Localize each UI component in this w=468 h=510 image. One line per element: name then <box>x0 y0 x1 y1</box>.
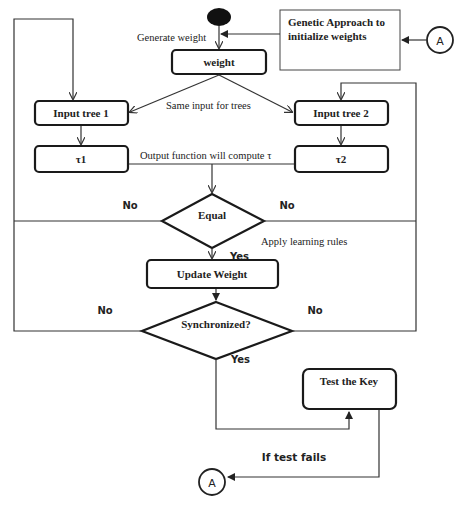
left-feedback-loop <box>14 19 142 331</box>
connector-a-bottom-label: A <box>208 477 216 490</box>
input-tree-1-node: Input tree 1 <box>35 101 128 125</box>
apply-learning-label: Apply learning rules <box>261 236 347 247</box>
equal-no-left-label: No <box>122 200 137 211</box>
weight-label: weight <box>203 56 235 68</box>
update-weight-node: Update Weight <box>147 260 278 288</box>
sync-no-left-label: No <box>97 305 112 316</box>
start-node <box>207 8 231 26</box>
synchronized-decision: Synchronized? <box>142 302 292 359</box>
genetic-approach-box: Genetic Approach to initialize weights <box>280 10 400 70</box>
input-tree-1-label: Input tree 1 <box>53 107 108 119</box>
weight-node: weight <box>172 50 266 74</box>
input-tree-2-label: Input tree 2 <box>313 107 369 119</box>
tau1-node: τ1 <box>35 146 128 172</box>
test-key-node: Test the Key <box>303 369 396 409</box>
genetic-label-2: initialize weights <box>288 30 367 42</box>
same-input-label: Same input for trees <box>166 100 251 111</box>
input-tree-2-node: Input tree 2 <box>295 101 388 125</box>
sync-yes-label: Yes <box>230 354 250 365</box>
equal-decision: Equal <box>162 194 264 248</box>
genetic-label-1: Genetic Approach to <box>288 16 385 28</box>
tau2-node: τ2 <box>295 146 388 172</box>
equal-no-right-label: No <box>279 200 294 211</box>
connector-a-top: A <box>427 27 453 53</box>
test-key-label: Test the Key <box>320 375 379 387</box>
connector-a-top-label: A <box>436 35 444 48</box>
test-fails-label: If test fails <box>262 451 326 463</box>
flowchart-canvas: Genetic Approach to initialize weights A… <box>0 0 468 510</box>
sync-no-right-label: No <box>307 305 322 316</box>
tau1-label: τ1 <box>76 153 87 165</box>
connector-a-bottom: A <box>199 469 225 495</box>
generate-weight-label: Generate weight <box>137 32 206 43</box>
update-weight-label: Update Weight <box>177 268 248 280</box>
equal-label: Equal <box>198 209 226 221</box>
output-function-label: Output function will compute τ <box>140 150 271 161</box>
tau2-label: τ2 <box>336 153 347 165</box>
synchronized-label: Synchronized? <box>181 318 250 330</box>
